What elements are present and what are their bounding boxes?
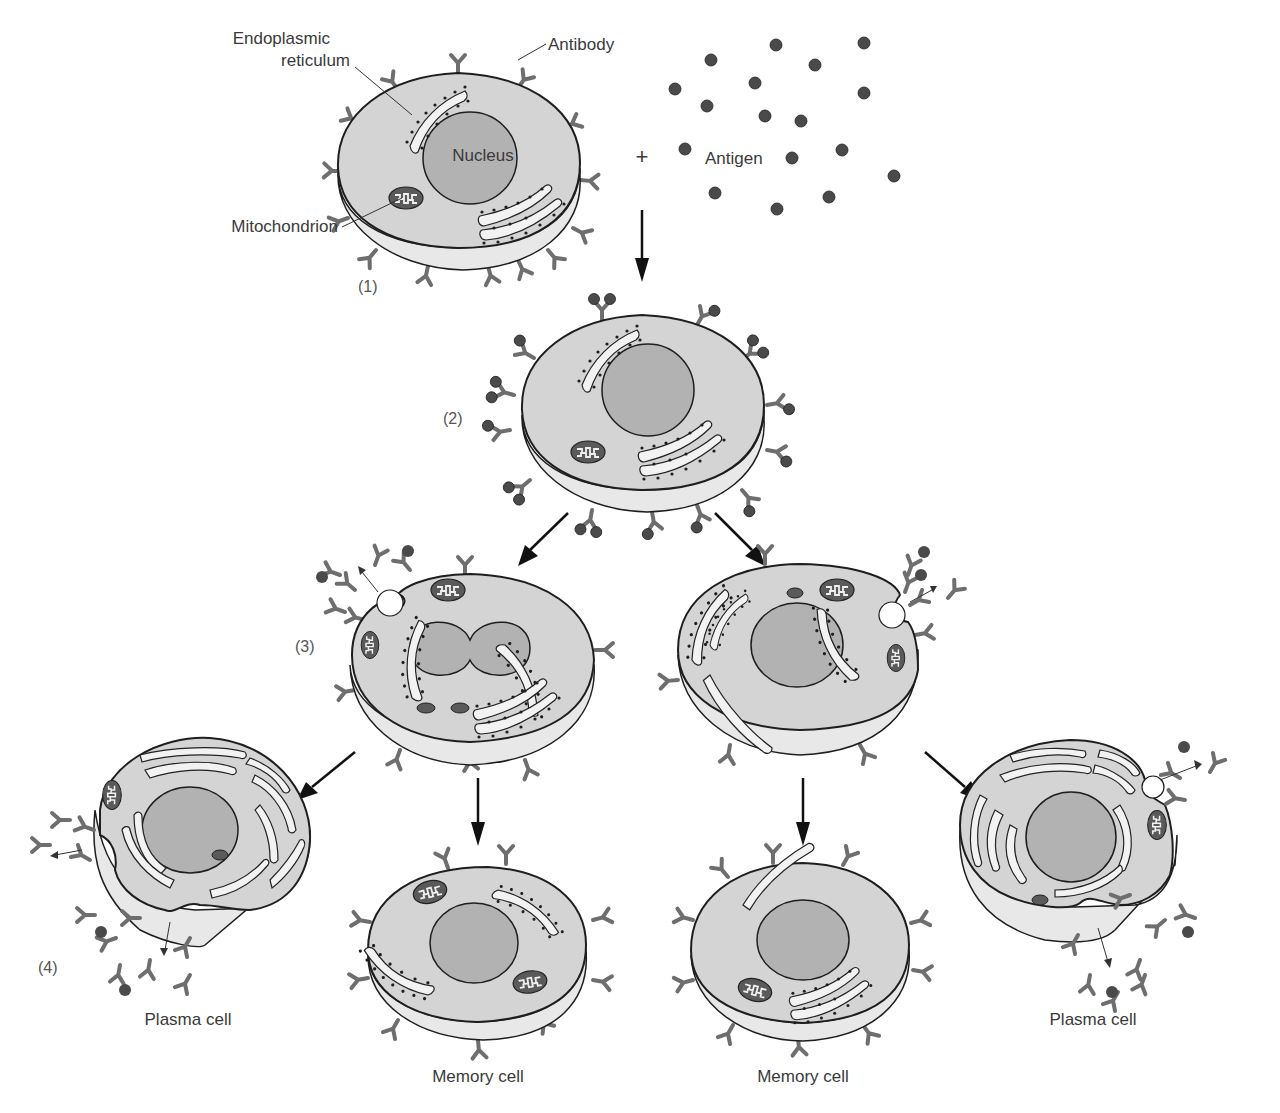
arrow-down-left-icon — [518, 513, 568, 566]
plus-sign: + — [636, 144, 649, 169]
cell-3-right — [659, 546, 964, 764]
antigen-icon — [770, 39, 782, 51]
plasma-cell-left-label: Plasma cell — [145, 1010, 232, 1029]
plasma-cell-right: Plasma cell — [960, 740, 1225, 1029]
er-label-line2: reticulum — [281, 51, 350, 70]
memory-cell-left: Memory cell — [349, 846, 612, 1086]
cell-3-dividing-left: (3) — [295, 545, 613, 779]
antibody-label: Antibody — [548, 35, 615, 54]
clonal-selection-diagram: Nucleus Endoplasmic reticulum Antibody M… — [0, 0, 1280, 1113]
arrow-down-icon — [796, 778, 810, 846]
step-1-label: (1) — [358, 278, 378, 295]
step-3-label: (3) — [295, 638, 315, 655]
er-label-line1: Endoplasmic — [233, 29, 331, 48]
secreted-antibodies — [898, 546, 965, 602]
antigen-label: Antigen — [705, 149, 763, 168]
arrow-down-right-icon — [715, 513, 765, 566]
memory-cell-right: Memory cell — [674, 839, 932, 1086]
antigen-cluster — [669, 37, 900, 215]
arrow-down-left-icon — [297, 752, 355, 800]
step-2-label: (2) — [443, 410, 463, 427]
cell-1-b-lymphocyte: Nucleus Endoplasmic reticulum Antibody M… — [231, 29, 614, 295]
antibody-leader-line — [518, 44, 546, 60]
memory-cell-left-label: Memory cell — [432, 1067, 524, 1086]
cell-2-antigen-bound: (2) — [443, 294, 795, 541]
step-4-label: (4) — [38, 959, 58, 976]
mitochondrion-label: Mitochondrion — [231, 217, 338, 236]
arrow-down-icon — [635, 210, 649, 282]
plasma-cell-left: (4) Plasma cell — [32, 738, 310, 1029]
nucleus-label: Nucleus — [452, 146, 513, 165]
memory-cell-right-label: Memory cell — [757, 1067, 849, 1086]
plasma-cell-right-label: Plasma cell — [1050, 1010, 1137, 1029]
arrow-down-icon — [471, 778, 485, 846]
